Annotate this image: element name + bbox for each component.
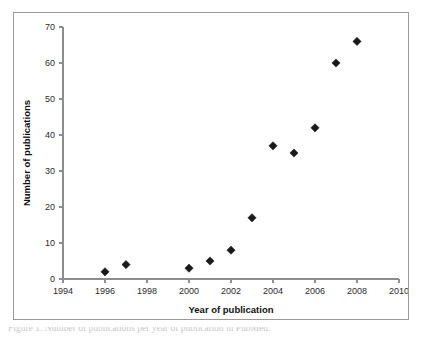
data-point [353,37,361,45]
y-axis-title: Number of publications [21,100,32,206]
data-point [269,142,277,150]
y-tick-label-50: 50 [45,94,55,104]
y-tick-label-10: 10 [45,238,55,248]
data-point [290,149,298,157]
data-point [185,264,193,272]
scatter-plot: 0 10 20 30 40 50 60 70 1994 [14,13,408,319]
x-tick-label-1998: 1998 [137,286,157,296]
caption-strip: Figure 1. Number of publications per yea… [0,327,423,340]
data-point [122,261,130,269]
x-tick-label-2002: 2002 [221,286,241,296]
y-tick-label-30: 30 [45,166,55,176]
x-tick-label-1994: 1994 [53,286,73,296]
data-point [332,59,340,67]
y-tick-label-60: 60 [45,58,55,68]
figure: 0 10 20 30 40 50 60 70 1994 [0,0,423,340]
y-axis-ticks: 0 10 20 30 40 50 60 70 [45,22,63,284]
x-tick-label-2004: 2004 [263,286,283,296]
x-tick-label-2008: 2008 [347,286,367,296]
y-tick-label-40: 40 [45,130,55,140]
data-point [206,257,214,265]
x-tick-label-1996: 1996 [95,286,115,296]
x-tick-label-2010: 2010 [389,286,408,296]
data-point [311,124,319,132]
y-tick-label-0: 0 [50,274,55,284]
x-tick-label-2000: 2000 [179,286,199,296]
x-tick-label-2006: 2006 [305,286,325,296]
x-axis-title: Year of publication [189,304,274,315]
y-tick-label-70: 70 [45,22,55,32]
data-point [227,246,235,254]
chart-frame: 0 10 20 30 40 50 60 70 1994 [13,12,409,320]
data-point [248,214,256,222]
y-tick-label-20: 20 [45,202,55,212]
x-axis-ticks: 1994 1996 1998 2000 2002 2004 2006 2008 … [53,279,408,296]
data-point [101,268,109,276]
figure-caption: Figure 1. Number of publications per yea… [8,327,418,333]
data-point-group [101,37,361,276]
